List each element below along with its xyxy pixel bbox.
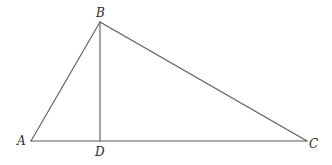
label-a: A	[16, 134, 26, 148]
label-b: B	[95, 6, 105, 20]
label-d: D	[94, 145, 105, 159]
segment-ab	[31, 22, 100, 141]
triangle-diagram: A B C D	[0, 0, 332, 165]
segment-bc	[100, 22, 307, 141]
label-c: C	[309, 137, 318, 151]
